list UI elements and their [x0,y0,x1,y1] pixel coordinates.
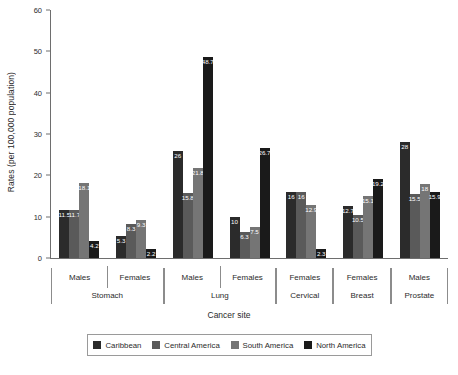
x-axis-sex-row: Females [277,268,332,286]
y-tick-label: 50 [34,47,46,56]
bar: 16 [296,192,306,258]
x-axis-site-block: MalesFemalesStomach [51,268,164,304]
bar: 15.8 [183,193,193,258]
bar-value-label: 18 [421,186,428,192]
bar: 15.5 [410,194,420,258]
x-axis-site-label: Prostate [392,286,447,304]
x-axis-line [50,258,448,259]
legend-label: Central America [164,341,219,350]
y-tick-label: 40 [34,88,46,97]
bar-value-label: 5.3 [117,238,126,244]
bar: 7.5 [250,227,260,258]
legend-swatch-icon [304,341,312,349]
bar: 48.7 [203,57,213,258]
bar-value-label: 2.3 [317,251,326,257]
bar: 12.9 [306,205,316,258]
legend-swatch-icon [93,341,101,349]
x-axis-site-block: FemalesBreast [333,268,390,304]
x-axis-sex-row: MalesFemales [165,268,276,286]
bar: 9.3 [136,220,146,258]
bar-chart: Rates (per 100,000 population) 010203040… [0,0,458,375]
legend-swatch-icon [152,341,160,349]
bar-value-label: 28 [401,144,408,150]
bar-value-label: 9.3 [137,222,146,228]
bar: 2.2 [146,249,156,258]
bar: 6.3 [240,232,250,258]
x-axis-sex-label: Females [220,268,275,286]
bar-value-label: 4.2 [90,243,99,249]
bar: 8.3 [126,224,136,258]
legend-swatch-icon [231,341,239,349]
plot-area: 0102030405060 11.511.718.14.25.38.39.32.… [20,10,448,268]
bar: 16 [286,192,296,258]
x-axis-sex-label: Females [277,268,332,286]
bar: 18.1 [79,183,89,258]
bar-group: 12.710.515.119.2 [335,10,392,258]
bar: 12.7 [343,206,353,258]
y-tick-label: 10 [34,212,46,221]
legend-label: Caribbean [105,341,141,350]
y-tick-label: 60 [34,6,46,15]
bar: 15.9 [430,192,440,258]
x-axis-site-label: Stomach [52,286,163,304]
legend-item[interactable]: Central America [152,341,219,350]
bar-value-label: 15.9 [429,194,441,200]
y-tick-label: 30 [34,130,46,139]
legend-label: South America [243,341,294,350]
x-axis-sex-label: Males [392,268,447,286]
x-axis-sex-label: Males [52,268,107,286]
bar-value-label: 10 [231,219,238,225]
bar-value-label: 2.2 [147,251,156,257]
legend-label: North America [316,341,365,350]
bar: 19.2 [373,179,383,258]
bar: 4.2 [89,241,99,258]
bar: 15.1 [363,196,373,258]
bar: 10.5 [353,215,363,258]
bar-value-label: 26 [174,153,181,159]
x-axis-site-block: MalesProstate [391,268,448,304]
bar-value-label: 12.9 [305,207,317,213]
bar-value-label: 16 [288,194,295,200]
bar-group: 5.38.39.32.2 [108,10,165,258]
x-axis-sex-label: Females [107,268,162,286]
bar-value-label: 48.7 [202,59,214,65]
legend: CaribbeanCentral AmericaSouth AmericaNor… [87,334,372,356]
bar-value-label: 26.7 [258,150,270,156]
bar-value-label: 7.5 [250,229,259,235]
y-axis-title-text: Rates (per 100,000 population) [6,72,16,192]
bar: 10 [230,217,240,258]
bar-group: 2815.51815.9 [391,10,448,258]
bar: 21.8 [193,168,203,258]
x-axis-sex-row: MalesFemales [52,268,163,286]
x-axis-site-label: Cervical [277,286,332,304]
bar-value-label: 18.1 [78,185,90,191]
y-tick-label: 20 [34,171,46,180]
bar-group: 161612.92.3 [278,10,335,258]
bar: 26.7 [260,148,270,258]
bar: 26 [173,151,183,258]
legend-item[interactable]: Caribbean [93,341,141,350]
bars-container: 11.511.718.14.25.38.39.32.22615.821.848.… [51,10,448,258]
bar: 2.3 [316,249,326,259]
x-axis-site-label: Breast [334,286,389,304]
bar-value-label: 12.7 [342,208,354,214]
x-axis-site-label: Lung [165,286,276,304]
bar-value-label: 6.3 [240,234,249,240]
y-axis-title: Rates (per 100,000 population) [2,0,20,265]
bar-group: 11.511.718.14.2 [51,10,108,258]
legend-item[interactable]: South America [231,341,294,350]
bar-group: 2615.821.848.7 [164,10,221,258]
x-axis-sex-row: Females [334,268,389,286]
x-axis-category-labels: MalesFemalesStomachMalesFemalesLungFemal… [51,268,448,304]
bar-group: 106.37.526.7 [221,10,278,258]
bar-value-label: 16 [298,194,305,200]
bar: 5.3 [116,236,126,258]
y-tick-label: 0 [38,254,46,263]
bar-value-label: 8.3 [127,226,136,232]
bar: 11.7 [69,210,79,258]
x-axis-title: Cancer site [0,310,458,320]
legend-item[interactable]: North America [304,341,365,350]
x-axis-sex-row: Males [392,268,447,286]
x-axis-site-block: MalesFemalesLung [164,268,277,304]
x-axis-site-block: FemalesCervical [276,268,333,304]
